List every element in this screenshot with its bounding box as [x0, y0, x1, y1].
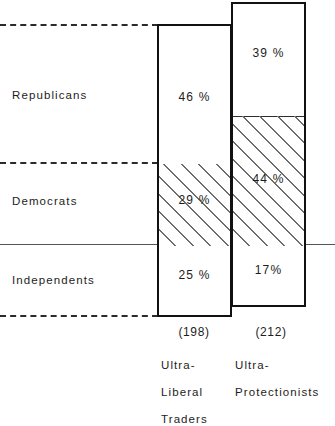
category-label-independents: Independents: [12, 274, 95, 286]
series-name-line2: Protectionists: [235, 386, 319, 398]
gridline-independents-bottom: [0, 315, 158, 317]
series-name-line2: Liberal: [161, 386, 203, 398]
segment-republicans-right: [233, 4, 304, 116]
segment-independents-right: [233, 246, 304, 309]
category-label-democrats: Democrats: [12, 195, 78, 207]
n-label-ultra-liberal-traders: (198): [155, 325, 233, 339]
series-name-line1: Ultra-: [161, 359, 196, 371]
gridline-republicans-democrats: [0, 162, 158, 164]
value-label-right-republicans: 39 %: [231, 46, 306, 60]
value-label-right-independents: 17%: [231, 263, 306, 277]
value-label-left-republicans: 46 %: [157, 90, 232, 104]
series-name-line3: Traders: [161, 413, 208, 425]
series-name-ultra-liberal-traders: Ultra- Liberal Traders: [161, 345, 231, 426]
category-label-republicans: Republicans: [12, 89, 87, 101]
series-name-line1: Ultra-: [235, 359, 270, 371]
value-label-left-democrats: 29 %: [157, 193, 232, 207]
value-label-left-independents: 25 %: [157, 268, 232, 282]
segment-independents-left: [159, 246, 230, 319]
value-label-right-democrats: 44 %: [231, 172, 306, 186]
gridline-republicans-top: [0, 24, 158, 26]
series-name-ultra-protectionists: Ultra- Protectionists: [235, 345, 335, 399]
n-label-ultra-protectionists: (212): [232, 325, 310, 339]
